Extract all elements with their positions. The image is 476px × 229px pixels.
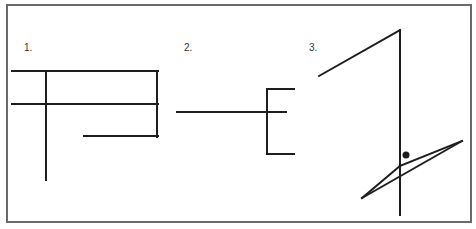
figure-2	[177, 89, 294, 154]
diagram-canvas	[0, 0, 476, 229]
line-slant-upper-left	[362, 166, 400, 198]
figure-1-label: 1.	[24, 43, 32, 53]
line-rising-diagonal	[319, 30, 400, 76]
diagram-frame	[7, 5, 471, 222]
figure-3	[319, 30, 462, 215]
line-slant-lower	[362, 141, 462, 198]
line-slant-upper-right	[400, 141, 462, 166]
figure-2-label: 2.	[184, 43, 192, 53]
dot-marker	[403, 152, 410, 159]
figure-1	[12, 71, 158, 180]
figure-3-label: 3.	[309, 43, 317, 53]
